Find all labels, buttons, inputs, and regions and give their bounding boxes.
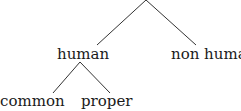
node-non-human: non human bbox=[171, 47, 241, 62]
node-common: common bbox=[0, 94, 65, 109]
node-human: human bbox=[57, 47, 109, 62]
tree-diagram: human non human common proper bbox=[0, 0, 241, 111]
node-proper: proper bbox=[81, 94, 132, 109]
edge-human-proper bbox=[80, 62, 110, 93]
edge-human-common bbox=[53, 62, 80, 93]
edge-root-human bbox=[97, 0, 146, 45]
edge-root-nonhuman bbox=[146, 0, 196, 45]
